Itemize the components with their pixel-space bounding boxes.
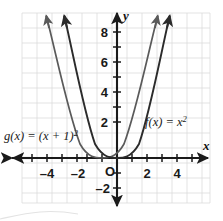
- coordinate-plane-svg: y x –4 –2 2 4 O 8 6 4 2 –2 f(x) = x2 g(x…: [0, 0, 223, 221]
- x-tick-label-4: 4: [173, 166, 181, 181]
- function-label-f-base: f(x) = x: [145, 115, 183, 129]
- graph-figure: y x –4 –2 2 4 O 8 6 4 2 –2 f(x) = x2 g(x…: [0, 0, 223, 221]
- x-tick-label--4: –4: [40, 166, 55, 181]
- origin-label: O: [105, 164, 115, 179]
- page-edge-artifact: [0, 212, 78, 219]
- y-axis-label: y: [121, 8, 129, 23]
- y-tick-label-2: 2: [101, 115, 108, 130]
- y-tick-label-6: 6: [101, 55, 108, 70]
- y-tick-label--2: –2: [96, 181, 110, 196]
- y-tick-label-4: 4: [101, 85, 109, 100]
- x-axis-label: x: [202, 138, 210, 153]
- x-tick-label--2: –2: [71, 166, 85, 181]
- function-label-f: f(x) = x2: [145, 114, 188, 129]
- function-label-g: g(x) = (x + 1)2: [4, 128, 79, 143]
- function-label-g-base: g(x) = (x + 1): [4, 129, 74, 143]
- x-tick-label-2: 2: [143, 166, 150, 181]
- y-tick-label-8: 8: [101, 25, 108, 40]
